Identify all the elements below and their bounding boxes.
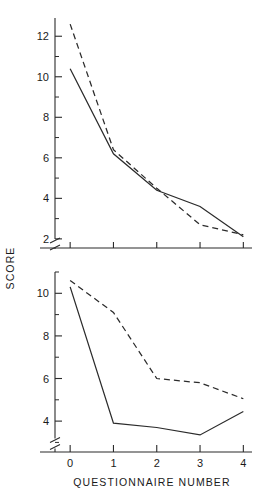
lower-solid-series: [70, 287, 243, 435]
y-tick-label: 4: [43, 415, 49, 427]
upper-dashed-series: [70, 24, 243, 235]
y-tick-label: 12: [37, 30, 49, 42]
x-tick-label: 2: [154, 457, 160, 469]
y-tick-label: 10: [37, 71, 49, 83]
upper-solid-series: [70, 69, 243, 237]
y-tick-label: 2: [43, 233, 49, 245]
x-tick-label: 3: [197, 457, 203, 469]
y-tick-label: 10: [37, 287, 49, 299]
x-axis-title: QUESTIONNAIRE NUMBER: [73, 476, 230, 488]
lower-x-tick-labels: 01234: [67, 457, 246, 469]
upper-panel: 24681012: [37, 18, 252, 250]
lower-y-axis: [50, 272, 62, 452]
y-tick-label: 6: [43, 373, 49, 385]
upper-y-axis: [40, 18, 252, 250]
y-axis-title: SCORE: [4, 247, 16, 290]
y-tick-label: 4: [43, 192, 49, 204]
upper-data-series: [70, 24, 243, 237]
chart-figure: 24681012 46810 01234 QUESTIONNAIRE NUMBE…: [0, 0, 263, 492]
lower-dashed-series: [70, 281, 243, 399]
y-tick-label: 8: [43, 111, 49, 123]
lower-panel: 46810 01234: [37, 272, 252, 469]
lower-data-series: [70, 281, 243, 435]
lower-x-axis: [40, 445, 252, 452]
x-tick-label: 1: [110, 457, 116, 469]
upper-y-tick-labels: 24681012: [37, 30, 49, 245]
x-tick-label: 4: [240, 457, 246, 469]
lower-y-tick-labels: 46810: [37, 287, 49, 427]
chart-canvas: 24681012 46810 01234 QUESTIONNAIRE NUMBE…: [0, 0, 263, 492]
y-tick-label: 8: [43, 330, 49, 342]
x-tick-label: 0: [67, 457, 73, 469]
y-tick-label: 6: [43, 152, 49, 164]
